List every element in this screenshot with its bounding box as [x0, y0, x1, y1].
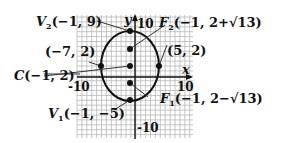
vertex-v2-point: [127, 28, 133, 34]
left-covertex-point: [98, 63, 104, 69]
label-center: C(−1, 2): [14, 68, 75, 83]
y-tick-10: 10: [137, 17, 154, 31]
y-axis-label: y: [123, 12, 133, 27]
y-tick-neg10: -10: [137, 121, 159, 135]
label-right-point: (5, 2): [167, 43, 206, 58]
leader-lines: [44, 21, 167, 110]
label-v2: V2(−1, 9): [36, 14, 102, 31]
x-axis-label: x: [181, 62, 190, 77]
label-f1: F1(−1, 2−√13): [159, 91, 263, 108]
focus-f1-point: [127, 80, 133, 86]
vertex-v1-point: [127, 97, 133, 103]
label-left-point: (−7, 2): [45, 44, 95, 59]
label-f2: F2(−1, 2+√13): [158, 15, 262, 32]
ellipse-diagram: y x 10 10 -10 -10 V2(−1, 9) F2(−1, 2+√13…: [0, 0, 284, 143]
points: [98, 28, 162, 103]
right-covertex-point: [156, 63, 162, 69]
focus-f2-point: [127, 46, 133, 52]
label-v1: V1(−1, −5): [48, 106, 125, 123]
center-point: [127, 63, 133, 69]
